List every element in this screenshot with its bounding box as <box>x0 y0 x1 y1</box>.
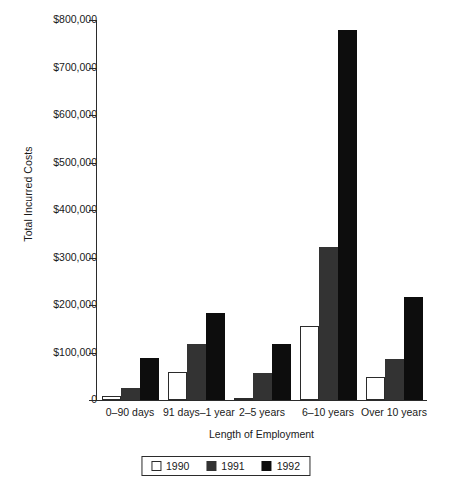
bar-1991-1 <box>121 388 140 400</box>
y-tick-label: $300,000 <box>31 251 97 263</box>
bar-group <box>361 20 427 400</box>
x-tick-label: Over 10 years <box>361 406 427 418</box>
y-tick: $200,000 <box>20 305 97 306</box>
y-tick: $800,000 <box>20 20 97 21</box>
x-axis-line <box>96 400 427 401</box>
y-tick: 0 <box>20 400 97 401</box>
y-tick: $600,000 <box>20 115 97 116</box>
legend-label: 1991 <box>221 460 244 472</box>
y-tick-label: $800,000 <box>31 13 97 25</box>
x-tick-label: 6–10 years <box>295 406 361 418</box>
y-axis-title: Total Incurred Costs <box>22 94 34 294</box>
x-tick-label: 91 days–1 year <box>163 406 229 418</box>
bar-1990-2 <box>168 372 187 401</box>
y-tick: $500,000 <box>20 163 97 164</box>
bar-group <box>163 20 229 400</box>
y-tick: $100,000 <box>20 353 97 354</box>
y-tick-label: $400,000 <box>31 203 97 215</box>
bar-1992-1 <box>140 358 159 400</box>
bar-group <box>295 20 361 400</box>
legend: 199019911992 <box>141 456 310 476</box>
legend-swatch-icon-1990 <box>151 461 161 471</box>
bar-1990-5 <box>366 377 385 400</box>
x-tick-label: 0–90 days <box>97 406 163 418</box>
bar-1991-2 <box>187 344 206 400</box>
bar-1991-5 <box>385 359 404 400</box>
bar-1992-2 <box>206 313 225 400</box>
x-tick-label: 2–5 years <box>229 406 295 418</box>
plot-area <box>97 20 427 400</box>
y-tick-label: $100,000 <box>31 346 97 358</box>
y-tick: $300,000 <box>20 258 97 259</box>
y-tick: $400,000 <box>20 210 97 211</box>
legend-item-1992[interactable]: 1992 <box>262 460 300 472</box>
bar-group <box>229 20 295 400</box>
legend-label: 1990 <box>166 460 189 472</box>
bar-1992-5 <box>404 297 423 400</box>
y-tick-label: $600,000 <box>31 108 97 120</box>
legend-item-1991[interactable]: 1991 <box>206 460 244 472</box>
bar-1992-3 <box>272 344 291 400</box>
bar-1990-4 <box>300 326 319 400</box>
legend-swatch-icon-1992 <box>262 461 272 471</box>
y-tick-label: 0 <box>31 393 97 405</box>
legend-item-1990[interactable]: 1990 <box>151 460 189 472</box>
bar-group <box>97 20 163 400</box>
bar-1991-3 <box>253 373 272 400</box>
bar-1991-4 <box>319 247 338 400</box>
y-tick-label: $700,000 <box>31 61 97 73</box>
x-axis-title: Length of Employment <box>96 428 427 440</box>
bar-chart: Total Incurred Costs 0$100,000$200,000$3… <box>0 0 451 487</box>
y-tick-label: $500,000 <box>31 156 97 168</box>
legend-swatch-icon-1991 <box>206 461 216 471</box>
bar-1992-4 <box>338 30 357 401</box>
y-tick-label: $200,000 <box>31 298 97 310</box>
legend-label: 1992 <box>277 460 300 472</box>
y-tick: $700,000 <box>20 68 97 69</box>
